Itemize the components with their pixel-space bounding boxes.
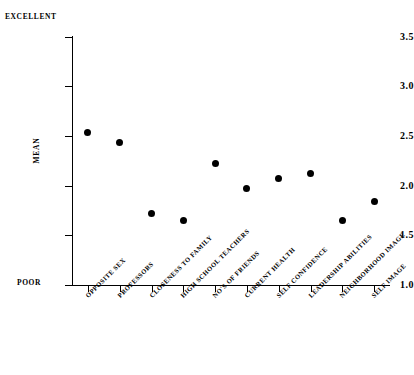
y-tick-mark <box>65 186 73 187</box>
y-tick-mark <box>65 136 73 137</box>
data-point <box>275 175 282 182</box>
data-point <box>212 160 219 167</box>
y-tick-mark <box>65 37 73 38</box>
data-point <box>84 129 91 136</box>
data-point <box>116 139 123 146</box>
y-tick-label: 3.0 <box>356 80 414 91</box>
y-tick-mark <box>65 285 73 286</box>
data-point <box>148 210 155 217</box>
y-tick-label: 2.0 <box>356 180 414 191</box>
data-point <box>180 217 187 224</box>
scale-high-label: EXCELLENT <box>5 12 57 21</box>
x-category-label: CLOSENESS TO FAMILY <box>148 233 214 299</box>
y-tick-label: 2.5 <box>356 130 414 141</box>
data-point <box>371 198 378 205</box>
data-point <box>307 170 314 177</box>
y-axis-title: MEAN <box>32 137 41 163</box>
y-tick-label: 3.5 <box>356 31 414 42</box>
y-axis-line <box>72 36 73 286</box>
data-point <box>243 185 250 192</box>
y-tick-mark <box>65 235 73 236</box>
y-tick-mark <box>65 86 73 87</box>
scatter-chart: EXCELLENT POOR MEAN 3.53.02.52.01.51.0 O… <box>0 0 414 375</box>
scale-low-label: POOR <box>17 278 41 287</box>
data-point <box>339 217 346 224</box>
